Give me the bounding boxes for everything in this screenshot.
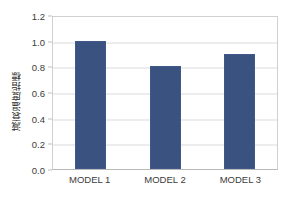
- y-axis-tick-label: 0.6: [32, 88, 45, 99]
- x-axis-tick-label: MODEL 3: [203, 174, 278, 185]
- y-axis-tick-label: 1.2: [32, 11, 45, 22]
- x-axis-tick-labels: MODEL 1MODEL 2MODEL 3: [52, 174, 278, 185]
- y-axis-tick-label: 0.0: [32, 165, 45, 176]
- bar-chart-figure: 減衰温度指標 0.00.20.40.60.81.01.2 MODEL 1MODE…: [0, 0, 296, 202]
- bars-container: [53, 17, 277, 169]
- bar-slot: [53, 17, 128, 169]
- bar-slot: [128, 17, 203, 169]
- bar[interactable]: [224, 54, 255, 170]
- y-axis-tick-labels: 0.00.20.40.60.81.01.2: [20, 16, 49, 170]
- y-axis-tick-label: 0.8: [32, 62, 45, 73]
- y-axis-tick-label: 1.0: [32, 36, 45, 47]
- x-axis-tick-label: MODEL 1: [52, 174, 127, 185]
- y-axis-tick-label: 0.2: [32, 139, 45, 150]
- bar[interactable]: [75, 41, 106, 169]
- y-axis-tick-label: 0.4: [32, 113, 45, 124]
- bar[interactable]: [150, 66, 181, 169]
- plot-area: [52, 16, 278, 170]
- bar-slot: [202, 17, 277, 169]
- x-axis-tick-label: MODEL 2: [127, 174, 202, 185]
